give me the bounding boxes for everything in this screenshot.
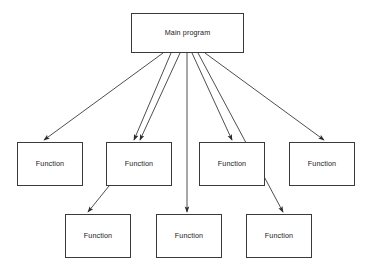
node-function-1[interactable]: Function — [17, 142, 83, 186]
edge-function-2-to-function-5 — [88, 186, 109, 212]
node-function-6[interactable]: Function — [156, 214, 222, 258]
node-main-program[interactable]: Main program — [131, 13, 244, 53]
edge-main-to-function-1 — [44, 53, 163, 140]
node-function-1-label: Function — [36, 160, 64, 167]
node-function-4-label: Function — [308, 160, 336, 167]
node-function-3-label: Function — [218, 160, 246, 167]
edge-main-to-function-2a — [134, 53, 171, 140]
node-function-4[interactable]: Function — [289, 142, 355, 186]
node-function-2-label: Function — [125, 160, 153, 167]
node-main-program-label: Main program — [165, 29, 211, 36]
node-function-7[interactable]: Function — [246, 214, 312, 258]
node-function-7-label: Function — [265, 232, 293, 239]
edge-main-to-function-2b — [140, 53, 180, 140]
node-function-3[interactable]: Function — [199, 142, 265, 186]
edge-main-to-function-7 — [198, 53, 283, 212]
edge-main-to-function-4 — [205, 53, 324, 140]
edge-main-to-function-3 — [192, 53, 232, 140]
node-function-2[interactable]: Function — [106, 142, 172, 186]
node-function-5[interactable]: Function — [65, 214, 131, 258]
node-function-6-label: Function — [175, 232, 203, 239]
diagram-canvas: Main program Function Function Function … — [0, 0, 369, 275]
node-function-5-label: Function — [84, 232, 112, 239]
